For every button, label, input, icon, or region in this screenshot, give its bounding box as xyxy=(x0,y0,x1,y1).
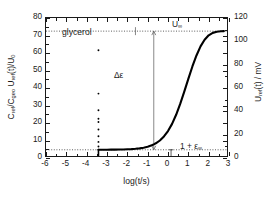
plot-area xyxy=(46,18,227,156)
y-tick-label-right-60: 60 xyxy=(234,83,260,91)
y-tick-label-left-20: 20 xyxy=(16,118,42,126)
x-axis-title: log(t/s) xyxy=(45,176,228,186)
data-point-transient-spike xyxy=(98,135,100,137)
x-tick-label-2: 2 xyxy=(198,160,218,168)
annotation-sample-label: glycerol xyxy=(62,27,92,37)
plot-svg xyxy=(46,18,227,156)
x-tick-3 xyxy=(229,152,230,156)
y-tick-label-left-10: 10 xyxy=(16,136,42,144)
annotation-one-plus-epsilon-sub: ∞ xyxy=(198,145,202,151)
data-point-transient-spike xyxy=(98,121,100,123)
y-tick-label-left-70: 70 xyxy=(16,31,42,39)
data-point-transient-spike xyxy=(98,146,100,148)
data-point-transient-spike xyxy=(98,93,100,95)
annotation-u-infinity: U∞ xyxy=(172,19,182,29)
y-tick-label-right-100: 100 xyxy=(234,36,260,44)
y-tick-label-left-80: 80 xyxy=(16,13,42,21)
data-series-relaxation-response xyxy=(98,31,223,150)
plot-frame xyxy=(45,17,228,157)
y-tick-label-right-40: 40 xyxy=(234,106,260,114)
data-point-transient-spike xyxy=(98,129,100,131)
x-tick-top-3 xyxy=(229,18,230,22)
x-tick-label-0: 0 xyxy=(157,160,177,168)
y-tick-label-left-40: 40 xyxy=(16,83,42,91)
y-tick-label-right-20: 20 xyxy=(234,130,260,138)
data-point-transient-spike xyxy=(98,141,100,143)
y-tick-label-left-60: 60 xyxy=(16,48,42,56)
x-tick-label--4: -4 xyxy=(76,160,96,168)
data-point-transient-spike xyxy=(98,118,100,120)
x-tick-label--1: -1 xyxy=(137,160,157,168)
annotation-u-infinity-sub: ∞ xyxy=(178,23,182,29)
data-point-transient-spike xyxy=(98,109,100,111)
y-tick-label-left-50: 50 xyxy=(16,66,42,74)
y-tick-label-right-80: 80 xyxy=(234,60,260,68)
annotation-one-plus-epsilon: 1 + ε∞ xyxy=(180,141,202,151)
annotation-delta-epsilon: Δε xyxy=(114,70,123,80)
y-tick-label-left-30: 30 xyxy=(16,101,42,109)
annotation-one-plus-epsilon-text: 1 + ε xyxy=(180,141,198,151)
y-tick-right-0 xyxy=(223,158,227,159)
y-tick-left-0 xyxy=(46,158,50,159)
x-tick-label-1: 1 xyxy=(177,160,197,168)
y-tick-label-right-120: 120 xyxy=(234,13,260,21)
x-tick-label--3: -3 xyxy=(96,160,116,168)
figure-container: Cref/Cgeo Uref(t)/U0 Uref(t) / mV log(t/… xyxy=(0,0,274,200)
x-tick-label--5: -5 xyxy=(55,160,75,168)
x-tick-label-3: 3 xyxy=(218,160,238,168)
x-tick-label--2: -2 xyxy=(116,160,136,168)
x-tick-label--6: -6 xyxy=(35,160,55,168)
data-point-transient-spike xyxy=(98,49,100,51)
